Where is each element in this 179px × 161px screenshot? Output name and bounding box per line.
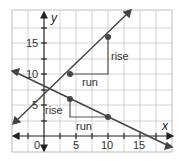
rise-label-2: rise: [45, 104, 63, 116]
run-label-1: run: [82, 76, 98, 88]
origin-label: 0: [34, 139, 40, 151]
run-label-2: run: [76, 120, 92, 132]
y-tick-15: 15: [26, 37, 38, 49]
x-tick-5: 5: [73, 139, 79, 151]
coordinate-plane: y x 0 5 10 15 15 10 5 rise run rise run: [0, 0, 179, 161]
line-increasing: [13, 10, 131, 124]
rise-label-1: rise: [111, 50, 129, 62]
y-axis-label: y: [50, 11, 58, 25]
x-tick-15: 15: [133, 139, 145, 151]
x-axis-label: x: [161, 119, 169, 133]
x-tick-10: 10: [101, 139, 113, 151]
